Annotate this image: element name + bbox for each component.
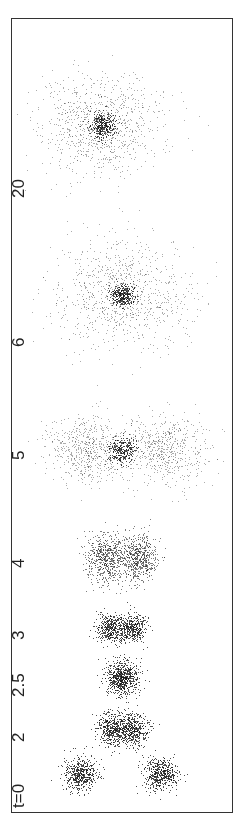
time-label-3: 3: [9, 631, 29, 640]
time-label-4: 4: [9, 559, 29, 568]
time-label-6: 6: [9, 338, 29, 347]
time-label-t0: t=0: [9, 784, 29, 808]
time-label-20: 20: [9, 179, 29, 198]
time-label-2-5: 2.5: [9, 673, 29, 697]
time-label-2: 2: [9, 733, 29, 742]
time-label-5: 5: [9, 451, 29, 460]
particle-scatter-canvas: [0, 0, 247, 828]
